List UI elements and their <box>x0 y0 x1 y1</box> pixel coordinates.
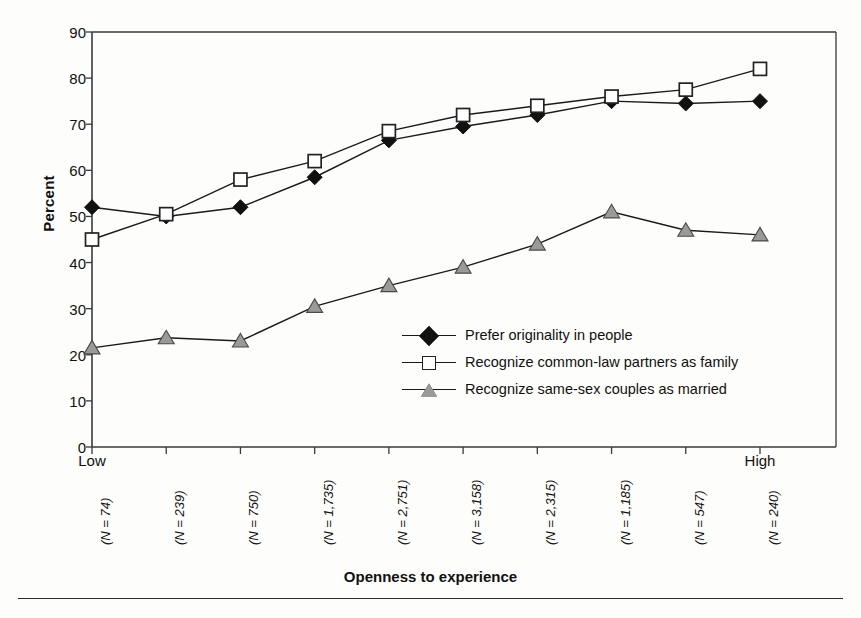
marker-diamond <box>85 200 100 215</box>
marker-square <box>382 125 395 138</box>
marker-square <box>234 173 247 186</box>
triangle-icon <box>421 383 437 396</box>
legend-marker-3 <box>402 381 456 399</box>
marker-square <box>86 233 99 246</box>
marker-square <box>605 90 618 103</box>
series-line-1 <box>92 101 760 216</box>
legend-item: Recognize same-sex couples as married <box>402 376 738 403</box>
marker-diamond <box>233 200 248 215</box>
legend-label: Prefer originality in people <box>465 328 633 343</box>
marker-diamond <box>307 170 322 185</box>
legend-label: Recognize common-law partners as family <box>465 355 738 370</box>
legend-marker-2 <box>402 354 456 372</box>
marker-triangle <box>455 260 471 274</box>
marker-square <box>679 83 692 96</box>
plot-area <box>0 0 861 618</box>
marker-square <box>308 155 321 168</box>
marker-square <box>754 62 767 75</box>
marker-diamond <box>753 94 768 109</box>
marker-square <box>531 99 544 112</box>
legend-item: Recognize common-law partners as family <box>402 349 738 376</box>
legend-item: Prefer originality in people <box>402 322 738 349</box>
marker-diamond <box>678 96 693 111</box>
chart-legend: Prefer originality in peopleRecognize co… <box>402 322 738 403</box>
diamond-icon <box>419 326 439 346</box>
marker-triangle <box>604 204 620 218</box>
marker-triangle <box>529 237 545 251</box>
legend-label: Recognize same-sex couples as married <box>465 382 727 397</box>
chart-figure: Percent Openness to experience 010203040… <box>0 0 861 618</box>
legend-marker-1 <box>402 327 456 345</box>
marker-triangle <box>307 299 323 313</box>
marker-triangle <box>158 330 174 344</box>
marker-square <box>160 208 173 221</box>
marker-square <box>457 109 470 122</box>
square-icon <box>422 356 436 370</box>
bottom-divider-rule <box>18 598 843 599</box>
